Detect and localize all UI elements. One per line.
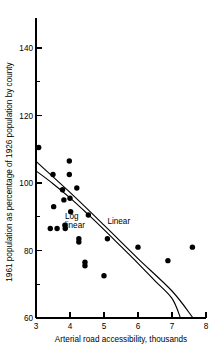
fit-curves-group [36,161,193,318]
data-point [165,258,170,263]
data-point [82,263,87,268]
data-point [48,226,53,231]
data-point [67,195,72,200]
y-axis-tick-label: 60 [24,314,34,323]
x-axis-tick-label: 3 [34,322,39,331]
x-axis-tick-label: 7 [170,322,175,331]
data-point [60,187,65,192]
fit-curve-log-linear [36,171,181,318]
y-axis-tick-label: 100 [19,179,33,188]
series-label-log-linear-line1: Log [65,212,79,221]
series-label-log-linear-line2: linear [65,221,85,230]
data-point [61,197,66,202]
data-point [74,185,79,190]
data-point [86,212,91,217]
data-point [67,172,72,177]
series-label-linear: Linear [107,217,130,226]
data-point [76,239,81,244]
y-axis-tick-labels: 6080100120140 [19,44,33,323]
data-point [135,244,140,249]
x-axis-tick-label: 6 [136,322,141,331]
scatter-plot: 6080100120140 345678 Linear Log linear A… [0,0,213,354]
data-point [105,236,110,241]
data-point [36,145,41,150]
data-point [50,172,55,177]
x-axis-tick-labels: 345678 [34,322,209,331]
x-axis-title: Arterial road accessibility, thousands [55,335,187,344]
data-points-group [36,145,195,279]
data-point [190,244,195,249]
x-axis-tick-label: 4 [68,322,73,331]
data-point [54,226,59,231]
data-point [67,158,72,163]
x-axis-tick-label: 8 [204,322,209,331]
y-axis-title: 1961 population as percentage of 1926 po… [5,61,14,281]
chart-figure: 6080100120140 345678 Linear Log linear A… [0,0,213,354]
y-axis-tick-label: 140 [19,44,33,53]
x-axis-tick-label: 5 [102,322,107,331]
data-point [101,273,106,278]
data-point [51,204,56,209]
y-axis-tick-label: 120 [19,112,33,121]
y-axis-tick-label: 80 [24,247,34,256]
y-axis-major-ticks [36,48,42,318]
